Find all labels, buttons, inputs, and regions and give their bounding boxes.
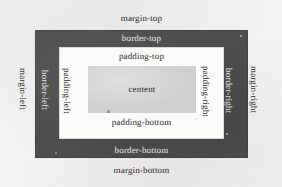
label-margin-top: margin-top [35,14,248,23]
scan-speck-icon [55,152,57,154]
label-padding-bottom: padding-bottom [35,118,248,127]
label-margin-bottom: margin-bottom [35,166,248,175]
label-padding-top: padding-top [35,52,248,61]
label-border-top: border-top [35,34,248,43]
label-border-left: border-left [40,70,49,110]
scan-speck-icon [240,35,242,37]
scan-speck-icon [226,133,228,135]
scan-speck-icon [107,110,110,113]
label-border-right: border-right [224,68,233,113]
label-border-bottom: border-bottom [35,146,248,155]
scan-speck-icon [135,75,137,77]
label-margin-left: margin-left [18,68,27,110]
label-margin-right: margin-right [249,66,258,113]
label-padding-right: padding-right [201,66,210,117]
box-model-diagram: margin-top border-top padding-top centen… [0,0,282,187]
label-content: centent [88,85,196,94]
scan-speck-icon [195,118,197,120]
label-padding-left: padding-left [62,68,71,114]
